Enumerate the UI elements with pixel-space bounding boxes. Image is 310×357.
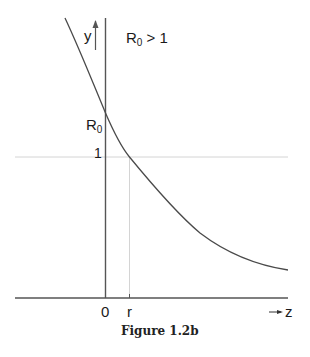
- tick-R-sub: 0: [97, 124, 103, 135]
- y-arrowhead-icon: [93, 20, 99, 28]
- figure-canvas: [0, 0, 310, 357]
- tick-R: R: [86, 116, 97, 133]
- tick-label-one: 1: [94, 146, 102, 160]
- x-axis-label: z: [285, 304, 293, 319]
- condition-r: R: [126, 29, 137, 46]
- z-arrowhead-icon: [277, 310, 283, 314]
- tick-label-origin: 0: [101, 304, 109, 319]
- condition-rest: > 1: [142, 29, 167, 46]
- condition-annotation: R0 > 1: [126, 30, 168, 48]
- tick-label-R0: R0: [86, 117, 102, 135]
- y-axis-label: y: [84, 28, 92, 43]
- tick-label-r: r: [127, 304, 132, 319]
- figure-caption: Figure 1.2b: [121, 324, 199, 338]
- decreasing-curve: [65, 18, 288, 270]
